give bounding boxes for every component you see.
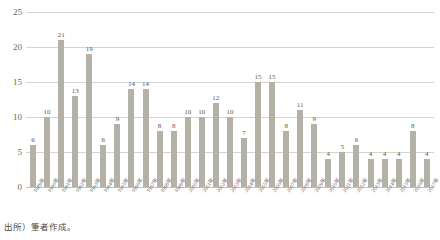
bar-slot: 9	[110, 12, 124, 187]
x-axis-label-slot: 1991年	[54, 188, 68, 214]
bar-value-label: 10	[198, 109, 205, 116]
bar[interactable]: 9	[311, 124, 317, 187]
x-axis-label-slot: 2001年	[195, 188, 209, 214]
x-axis-label-slot: 2016年	[406, 188, 420, 214]
bar-value-label: 19	[86, 46, 93, 53]
bar[interactable]: 12	[213, 103, 219, 187]
bar-slot: 6	[96, 12, 110, 187]
source-note: 出所）筆者作成。	[4, 221, 76, 233]
x-axis-label-slot: 2013年	[364, 188, 378, 214]
bar[interactable]: 4	[424, 159, 430, 187]
bar[interactable]: 15	[269, 82, 275, 187]
bar-slot: 8	[279, 12, 293, 187]
x-axis-label-slot: 2008年	[293, 188, 307, 214]
bar-slot: 4	[321, 12, 335, 187]
bar-slot: 10	[181, 12, 195, 187]
bar-slot: 10	[223, 12, 237, 187]
bar-value-label: 8	[172, 123, 176, 130]
bar-slot: 5	[335, 12, 349, 187]
x-axis-label-slot: 2009年	[307, 188, 321, 214]
bar-slot: 11	[293, 12, 307, 187]
x-axis-label-slot: 2000年	[181, 188, 195, 214]
bar[interactable]: 10	[185, 117, 191, 187]
bar-slot: 4	[364, 12, 378, 187]
x-axis-label-slot: 1996年	[124, 188, 138, 214]
bar[interactable]: 9	[114, 124, 120, 187]
x-axis-labels: 1989年1990年1991年1992年1993年1994年1995年1996年…	[26, 188, 434, 214]
bar-slot: 15	[265, 12, 279, 187]
x-axis-label-slot: 2015年	[392, 188, 406, 214]
bar[interactable]: 14	[128, 89, 134, 187]
x-axis-label-slot: 1993年	[82, 188, 96, 214]
x-axis-label-slot: 1990年	[40, 188, 54, 214]
bar-value-label: 15	[269, 74, 276, 81]
y-axis-tick-25: 25	[0, 8, 22, 17]
bar-value-label: 9	[313, 116, 317, 123]
bar-value-label: 8	[411, 123, 415, 130]
bar-slot: 9	[307, 12, 321, 187]
bar-value-label: 10	[184, 109, 191, 116]
bar-value-label: 4	[425, 151, 429, 158]
bar-slot: 14	[139, 12, 153, 187]
bar-slot: 6	[349, 12, 363, 187]
bar-value-label: 21	[58, 32, 65, 39]
bar-slot: 14	[124, 12, 138, 187]
x-axis-label-slot: 1997年	[139, 188, 153, 214]
x-axis-label-slot: 2014年	[378, 188, 392, 214]
bar-slot: 4	[378, 12, 392, 187]
bar-slot: 7	[237, 12, 251, 187]
bar-value-label: 4	[369, 151, 373, 158]
x-axis-label-slot: 1999年	[167, 188, 181, 214]
y-axis-tick-5: 5	[0, 148, 22, 157]
x-axis-label-slot: 2004年	[237, 188, 251, 214]
x-axis-label-slot: 2010年	[321, 188, 335, 214]
bar-slot: 12	[209, 12, 223, 187]
x-axis-label-slot: 1992年	[68, 188, 82, 214]
bar[interactable]: 10	[227, 117, 233, 187]
bar-slot: 19	[82, 12, 96, 187]
bar[interactable]: 6	[30, 145, 36, 187]
bar-slot: 13	[68, 12, 82, 187]
bar-value-label: 8	[158, 123, 162, 130]
bar[interactable]: 10	[199, 117, 205, 187]
y-axis-tick-15: 15	[0, 78, 22, 87]
bar-value-label: 8	[284, 123, 288, 130]
bar-slot: 10	[40, 12, 54, 187]
x-axis-label-slot: 2012年	[349, 188, 363, 214]
plot-area: 6102113196914148810101210715158119456444…	[26, 12, 434, 187]
bar-value-label: 6	[102, 137, 106, 144]
x-axis-label-slot: 2017年	[420, 188, 434, 214]
bar-slot: 8	[167, 12, 181, 187]
bar[interactable]: 5	[339, 152, 345, 187]
x-axis-label-slot: 2007年	[279, 188, 293, 214]
bar-value-label: 4	[327, 151, 331, 158]
bar[interactable]: 21	[58, 40, 64, 187]
bar-value-label: 4	[397, 151, 401, 158]
bar-value-label: 14	[142, 81, 149, 88]
bar[interactable]: 11	[297, 110, 303, 187]
bar-value-label: 7	[242, 130, 246, 137]
x-axis-label-slot: 2005年	[251, 188, 265, 214]
bar-value-label: 6	[355, 137, 359, 144]
bar-slot: 8	[153, 12, 167, 187]
x-axis-label-slot: 1995年	[110, 188, 124, 214]
x-axis-label-slot: 2002年	[209, 188, 223, 214]
bar[interactable]: 4	[382, 159, 388, 187]
bar[interactable]: 10	[44, 117, 50, 187]
bar-value-label: 15	[255, 74, 262, 81]
bar-slot: 8	[406, 12, 420, 187]
bar[interactable]: 14	[143, 89, 149, 187]
y-axis-tick-10: 10	[0, 113, 22, 122]
bar[interactable]: 4	[396, 159, 402, 187]
bar[interactable]: 13	[72, 96, 78, 187]
bar[interactable]: 19	[86, 54, 92, 187]
bar-slot: 10	[195, 12, 209, 187]
bar[interactable]: 15	[255, 82, 261, 187]
y-axis-tick-0: 0	[0, 183, 22, 192]
bar-value-label: 10	[44, 109, 51, 116]
x-axis-label-slot: 2006年	[265, 188, 279, 214]
bar[interactable]: 8	[283, 131, 289, 187]
bar[interactable]: 4	[368, 159, 374, 187]
bar-value-label: 6	[31, 137, 35, 144]
